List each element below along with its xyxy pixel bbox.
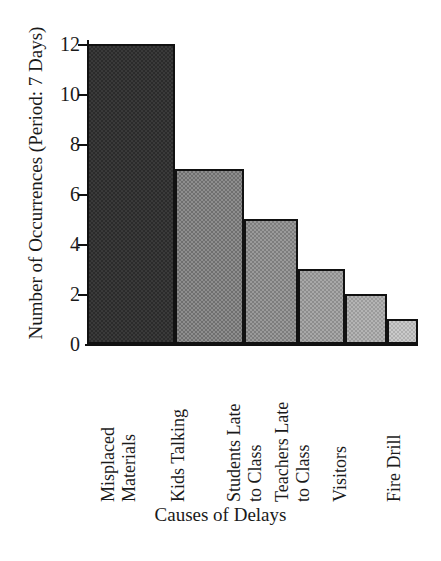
y-tick-label-4: 4 [50, 234, 80, 254]
bar-misplaced-materials [87, 44, 175, 344]
y-axis-title: Number of Occurrences (Period: 7 Days) [21, 23, 51, 343]
category-line-1: Students Late [224, 352, 245, 502]
plot-area [87, 42, 417, 344]
x-category-label-kids-talking: Kids Talking [168, 352, 214, 502]
y-tick-label-2: 2 [50, 284, 80, 304]
bar-students-late-to-class [244, 219, 298, 344]
category-line-2: to Class [245, 352, 266, 502]
category-line-1: Teachers Late [272, 352, 293, 502]
category-line-1: Misplaced [98, 352, 119, 502]
category-line-1: Fire Drill [384, 352, 405, 502]
x-category-label-fire-drill: Fire Drill [384, 352, 430, 502]
bar-teachers-late-to-class [298, 269, 345, 344]
y-tick-mark-2 [78, 294, 87, 296]
y-tick-mark-8 [78, 144, 87, 146]
y-tick-label-6: 6 [50, 184, 80, 204]
y-tick-mark-6 [78, 194, 87, 196]
y-tick-label-12: 12 [50, 34, 80, 54]
x-axis-line [85, 344, 418, 346]
pareto-bar-chart: Number of Occurrences (Period: 7 Days) 0… [0, 0, 441, 561]
x-category-label-misplaced-materials: Misplaced Materials [98, 352, 144, 502]
y-tick-mark-12 [78, 44, 87, 46]
x-category-label-visitors: Visitors [330, 352, 376, 502]
y-tick-label-10: 10 [50, 84, 80, 104]
y-tick-mark-10 [78, 94, 87, 96]
x-category-label-students-late-to-class: Students Late to Class [224, 352, 270, 502]
bar-visitors [345, 294, 387, 344]
y-tick-label-0: 0 [50, 334, 80, 354]
x-axis-title: Causes of Delays [0, 504, 441, 526]
bar-kids-talking [175, 169, 244, 344]
x-category-label-teachers-late-to-class: Teachers Late to Class [272, 352, 318, 502]
y-tick-mark-4 [78, 244, 87, 246]
category-line-1: Kids Talking [168, 352, 189, 502]
category-line-1: Visitors [330, 352, 351, 502]
y-tick-label-8: 8 [50, 134, 80, 154]
category-line-2: Materials [119, 352, 140, 502]
category-line-2: to Class [293, 352, 314, 502]
bar-fire-drill [387, 319, 418, 344]
